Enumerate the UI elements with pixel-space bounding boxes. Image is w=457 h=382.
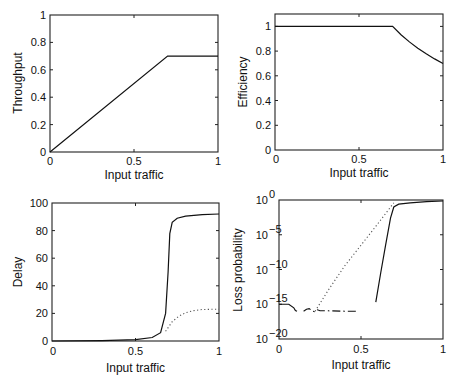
delay-solid-line bbox=[52, 214, 219, 341]
throughput-ytick-0.4: 0.4 bbox=[31, 91, 46, 103]
throughput-ytick-0.8: 0.8 bbox=[31, 36, 46, 48]
figure-canvas: 0 0.2 0.4 0.6 0.8 1 0 0.5 1 Input traffi… bbox=[0, 0, 457, 382]
efficiency-ytick-0.4: 0.4 bbox=[256, 95, 271, 107]
delay-ytick-20: 20 bbox=[36, 307, 48, 319]
loss-ylabel: Loss probability bbox=[231, 228, 245, 311]
loss-ytick-1e-10-exp: −10 bbox=[269, 258, 288, 270]
throughput-xtick-1: 1 bbox=[215, 155, 221, 167]
loss-ytick-1e0: 10 bbox=[256, 194, 268, 206]
loss-ytick-1e0-exp: 0 bbox=[269, 188, 275, 200]
efficiency-plot-frame bbox=[275, 14, 443, 150]
efficiency-ytick-0: 0 bbox=[265, 144, 271, 156]
efficiency-ytick-1: 1 bbox=[265, 20, 271, 32]
loss-probability-chart: 10 −20 10 −15 10 −10 10 −5 10 0 0 0.5 1 … bbox=[231, 188, 446, 372]
efficiency-y-ticks bbox=[275, 14, 443, 150]
loss-solid-low-line bbox=[279, 304, 297, 311]
throughput-ylabel: Throughput bbox=[11, 52, 25, 114]
efficiency-xlabel: Input traffic bbox=[329, 166, 388, 180]
loss-ytick-1e-15-exp: −15 bbox=[269, 292, 288, 304]
loss-ytick-labels: 10 −20 10 −15 10 −10 10 −5 10 0 bbox=[256, 188, 288, 345]
loss-xtick-0.5: 0.5 bbox=[353, 343, 368, 355]
loss-solid-high-line bbox=[376, 201, 443, 302]
efficiency-xtick-0.5: 0.5 bbox=[351, 153, 366, 165]
efficiency-ytick-0.2: 0.2 bbox=[256, 119, 271, 131]
delay-dotted-line bbox=[166, 309, 219, 331]
efficiency-xtick-0: 0 bbox=[273, 153, 279, 165]
delay-xtick-1: 1 bbox=[216, 345, 222, 357]
loss-dotted-line bbox=[315, 203, 394, 311]
delay-ytick-60: 60 bbox=[36, 252, 48, 264]
delay-y-ticks bbox=[52, 203, 219, 341]
delay-xtick-0: 0 bbox=[50, 345, 56, 357]
delay-xtick-0.5: 0.5 bbox=[128, 345, 143, 357]
delay-plot-frame bbox=[52, 203, 219, 341]
throughput-ytick-0.2: 0.2 bbox=[31, 119, 46, 131]
loss-ytick-1e-5-exp: −5 bbox=[269, 223, 282, 235]
efficiency-ylabel: Efficiency bbox=[236, 56, 250, 107]
delay-xlabel: Input traffic bbox=[106, 361, 165, 375]
throughput-xlabel: Input traffic bbox=[104, 168, 163, 182]
efficiency-ytick-0.6: 0.6 bbox=[256, 70, 271, 82]
loss-ytick-1e-20: 10 bbox=[256, 333, 268, 345]
throughput-ytick-0.6: 0.6 bbox=[31, 64, 46, 76]
efficiency-chart: 0 0.2 0.4 0.6 0.8 1 0 0.5 1 Input traffi… bbox=[236, 14, 446, 180]
loss-plot-frame bbox=[279, 200, 443, 339]
delay-ytick-0: 0 bbox=[42, 335, 48, 347]
throughput-xtick-0.5: 0.5 bbox=[126, 155, 141, 167]
loss-ytick-1e-5: 10 bbox=[256, 229, 268, 241]
efficiency-line bbox=[275, 26, 443, 63]
efficiency-xtick-1: 1 bbox=[440, 153, 446, 165]
throughput-ytick-0: 0 bbox=[40, 146, 46, 158]
loss-ytick-1e-15: 10 bbox=[256, 298, 268, 310]
loss-xtick-1: 1 bbox=[440, 343, 446, 355]
delay-ytick-100: 100 bbox=[30, 197, 48, 209]
delay-ylabel: Delay bbox=[11, 257, 25, 288]
loss-ytick-1e-10: 10 bbox=[256, 264, 268, 276]
loss-xtick-0: 0 bbox=[276, 343, 282, 355]
delay-ytick-40: 40 bbox=[36, 280, 48, 292]
loss-dashdot-line bbox=[304, 309, 357, 312]
loss-xlabel: Input traffic bbox=[331, 358, 390, 372]
throughput-chart: 0 0.2 0.4 0.6 0.8 1 0 0.5 1 Input traffi… bbox=[11, 9, 221, 182]
throughput-line bbox=[50, 56, 218, 152]
delay-chart: 0 20 40 60 80 100 0 0.5 1 Input traffic … bbox=[11, 197, 222, 375]
delay-ytick-80: 80 bbox=[36, 225, 48, 237]
throughput-xtick-0: 0 bbox=[47, 155, 53, 167]
throughput-ytick-1: 1 bbox=[40, 9, 46, 21]
efficiency-ytick-0.8: 0.8 bbox=[256, 45, 271, 57]
loss-y-ticks bbox=[279, 200, 443, 339]
loss-ytick-1e-20-exp: −20 bbox=[269, 327, 288, 339]
